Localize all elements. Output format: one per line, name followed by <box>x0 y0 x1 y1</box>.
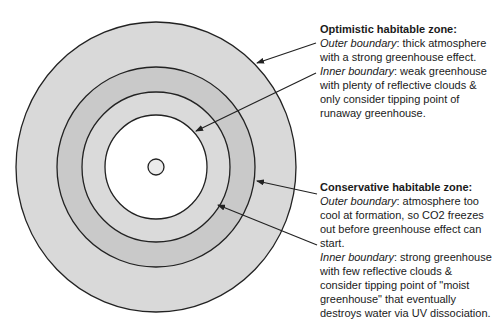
conservative-inner-line-3: consider tipping point of "moist <box>320 278 496 292</box>
optimistic-inner-line-4: runaway greenhouse. <box>320 106 496 120</box>
concentric-rings <box>16 22 296 312</box>
conservative-outer-label: Outer boundary <box>320 195 396 207</box>
optimistic-inner-text-1: : weak greenhouse <box>394 65 487 77</box>
optimistic-outer-line-2: with a strong greenhouse effect. <box>320 50 496 64</box>
optimistic-inner-label: Inner boundary <box>320 65 394 77</box>
conservative-inner-line-4: greenhouse" that eventually <box>320 292 496 306</box>
optimistic-outer-line-1: Outer boundary: thick atmosphere <box>320 36 496 50</box>
optimistic-zone-title: Optimistic habitable zone: <box>320 22 496 36</box>
conservative-zone-title: Conservative habitable zone: <box>320 180 496 194</box>
optimistic-inner-line-3: only consider tipping point of <box>320 92 496 106</box>
optimistic-inner-line-2: with plenty of reflective clouds & <box>320 78 496 92</box>
conservative-outer-line-1: Outer boundary: atmosphere too <box>320 194 496 208</box>
conservative-inner-line-1: Inner boundary: strong greenhouse <box>320 250 496 264</box>
conservative-outer-line-4: start. <box>320 236 496 250</box>
conservative-inner-label: Inner boundary <box>320 251 394 263</box>
optimistic-outer-label: Outer boundary <box>320 37 396 49</box>
optimistic-outer-arrow-icon <box>257 43 316 63</box>
conservative-inner-line-5: destroys water via UV dissociation. <box>320 306 496 320</box>
optimistic-outer-text-1: : thick atmosphere <box>396 37 486 49</box>
star-ring <box>148 159 164 175</box>
conservative-outer-line-2: cool at formation, so CO2 freezes <box>320 208 496 222</box>
conservative-inner-text-1: : strong greenhouse <box>394 251 492 263</box>
conservative-outer-text-1: : atmosphere too <box>396 195 479 207</box>
conservative-zone-note: Conservative habitable zone: Outer bound… <box>320 180 496 320</box>
optimistic-zone-note: Optimistic habitable zone: Outer boundar… <box>320 22 496 120</box>
conservative-inner-line-2: with few reflective clouds & <box>320 264 496 278</box>
optimistic-inner-line-1: Inner boundary: weak greenhouse <box>320 64 496 78</box>
conservative-outer-line-3: out before greenhouse effect can <box>320 222 496 236</box>
